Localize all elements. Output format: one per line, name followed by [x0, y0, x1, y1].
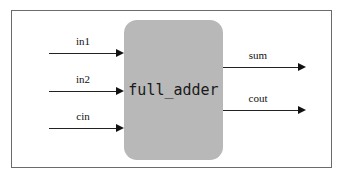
output-arrowhead-cout — [298, 106, 306, 114]
input-label-in1: in1 — [63, 35, 103, 47]
input-arrowhead-cin — [116, 124, 124, 132]
output-label-sum: sum — [238, 49, 278, 61]
full-adder-block-label: full_adder — [124, 20, 223, 160]
output-wire-sum — [223, 67, 299, 68]
output-arrowhead-sum — [298, 63, 306, 71]
input-arrowhead-in1 — [116, 49, 124, 57]
input-label-cin: cin — [63, 110, 103, 122]
input-wire-in2 — [49, 91, 117, 92]
output-wire-cout — [223, 110, 299, 111]
diagram-canvas: in1 in2 cin full_adder sum cout — [0, 0, 344, 181]
output-label-cout: cout — [238, 92, 278, 104]
input-arrowhead-in2 — [116, 87, 124, 95]
input-label-in2: in2 — [63, 73, 103, 85]
input-wire-in1 — [49, 53, 117, 54]
input-wire-cin — [49, 128, 117, 129]
full-adder-block: full_adder — [124, 20, 223, 160]
